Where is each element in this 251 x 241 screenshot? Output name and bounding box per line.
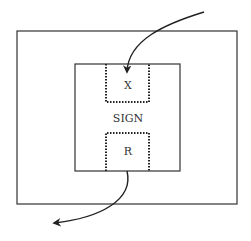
sign-diagram: X SIGN R — [0, 0, 251, 241]
input-arrow — [127, 12, 204, 72]
sign-label: SIGN — [113, 112, 144, 125]
output-region-label: R — [124, 145, 133, 158]
input-region-label: X — [124, 79, 132, 92]
output-arrow — [54, 171, 128, 223]
